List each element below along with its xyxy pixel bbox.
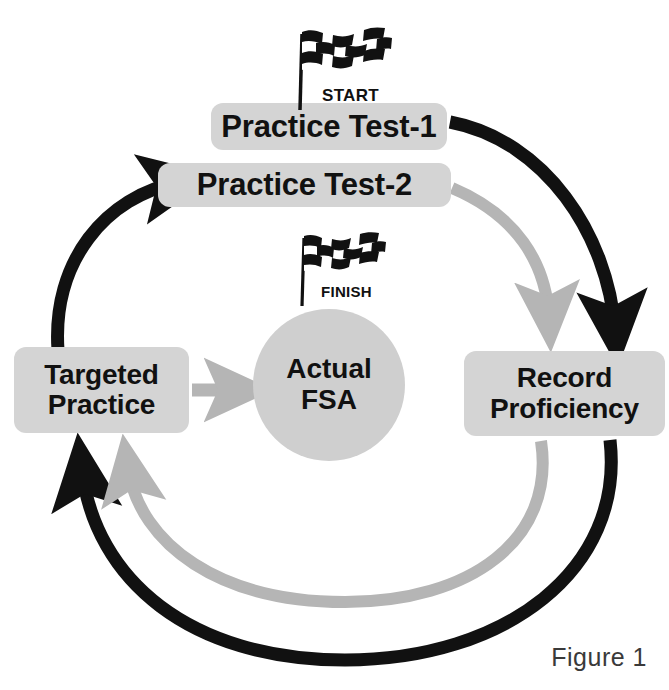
node-targeted-practice[interactable]: Targeted Practice [14, 347, 189, 433]
node-actual-fsa-label: Actual FSA [286, 354, 372, 416]
node-record-proficiency[interactable]: Record Proficiency [464, 351, 665, 436]
node-targeted-practice-line2: Practice [48, 389, 155, 420]
node-actual-fsa-line1: Actual [286, 353, 372, 384]
node-record-proficiency-label: Record Proficiency [490, 363, 639, 423]
figure-caption: Figure 1 [551, 643, 647, 672]
figure-container: START FINISH Practice Test-1 Practice Te… [0, 0, 669, 690]
arrow-record-to-targeted-primary [82, 440, 611, 660]
finish-label: FINISH [321, 283, 372, 300]
node-practice-test-2-label: Practice Test-2 [197, 168, 412, 201]
arrow-targeted-to-test2 [58, 182, 180, 350]
node-record-proficiency-line1: Record [517, 362, 612, 393]
node-record-proficiency-line2: Proficiency [490, 393, 639, 424]
node-practice-test-1-label: Practice Test-1 [221, 110, 436, 143]
node-targeted-practice-label: Targeted Practice [44, 360, 159, 420]
node-actual-fsa[interactable]: Actual FSA [253, 309, 405, 461]
start-label: START [322, 86, 379, 106]
node-practice-test-2[interactable]: Practice Test-2 [158, 163, 451, 207]
arrow-record-to-targeted-secondary [128, 441, 543, 602]
arrow-test1-to-record [450, 122, 615, 330]
node-targeted-practice-line1: Targeted [44, 359, 159, 390]
arrow-test2-to-record [452, 188, 549, 318]
node-actual-fsa-line2: FSA [301, 384, 357, 415]
